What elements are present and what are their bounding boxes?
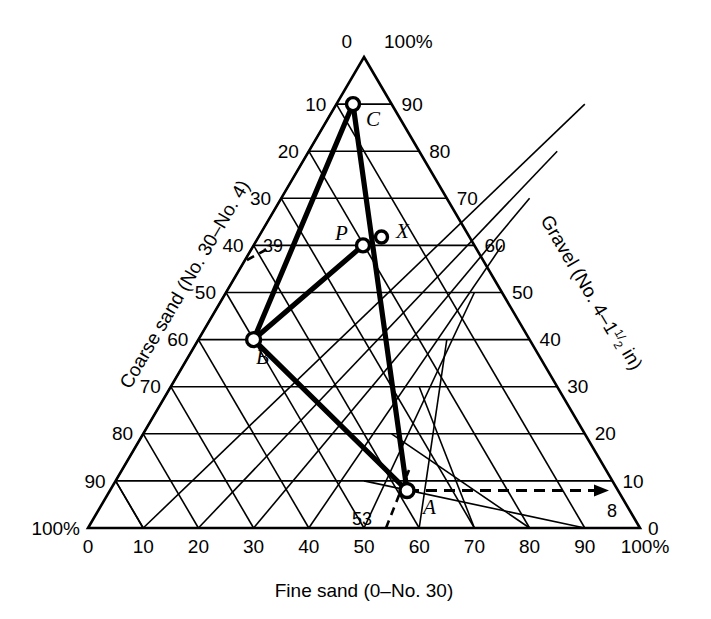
left-tick-100: 100% [31, 518, 80, 539]
bottom-tick-10: 10 [133, 536, 154, 557]
point-marker-p [357, 239, 370, 252]
bottom-tick-30: 30 [243, 536, 264, 557]
left-tick-20: 20 [278, 141, 299, 162]
right-tick-50: 50 [512, 282, 533, 303]
left-tick-90: 90 [84, 471, 105, 492]
bottom-tick-100: 100% [621, 536, 670, 557]
bottom-axis-ticks: 0 10 20 30 40 50 60 70 80 90 100% [83, 536, 670, 557]
annotation-fine-53: 53 [352, 509, 372, 529]
bottom-tick-50: 50 [353, 536, 374, 557]
point-label-p: P [334, 221, 348, 245]
right-tick-10: 10 [622, 471, 643, 492]
point-label-x: X [395, 219, 410, 243]
right-axis-ticks: 100% 90 80 70 60 50 40 30 20 10 0 [384, 31, 659, 539]
point-label-a: A [421, 495, 436, 519]
segment-b-a [254, 340, 407, 491]
point-marker-x [376, 231, 388, 243]
right-tick-30: 30 [567, 376, 588, 397]
point-label-b: B [256, 345, 269, 369]
left-tick-50: 50 [195, 282, 216, 303]
bottom-tick-80: 80 [519, 536, 540, 557]
right-tick-0: 0 [648, 518, 659, 539]
right-axis-title-group: Gravel (No. 4–11/2 in) [537, 210, 647, 375]
left-tick-70: 70 [140, 376, 161, 397]
bottom-tick-70: 70 [464, 536, 485, 557]
ternary-diagram-figure: C X P B A 39 53 8 0 10 20 30 40 50 60 70… [0, 0, 711, 619]
left-tick-60: 60 [167, 329, 188, 350]
left-tick-10: 10 [305, 94, 326, 115]
point-label-c: C [366, 107, 381, 131]
annotation-gravel-8: 8 [607, 501, 617, 521]
bottom-axis-title: Fine sand (0–No. 30) [275, 580, 454, 601]
point-marker-a [400, 484, 414, 498]
right-tick-90: 90 [402, 94, 423, 115]
right-axis-title-prefix: Gravel (No. 4–1 [537, 211, 623, 337]
bottom-tick-90: 90 [574, 536, 595, 557]
arrowhead-gravel8 [594, 485, 609, 497]
right-tick-20: 20 [595, 423, 616, 444]
bottom-tick-60: 60 [409, 536, 430, 557]
left-tick-30: 30 [250, 188, 271, 209]
left-tick-80: 80 [112, 423, 133, 444]
bottom-tick-0: 0 [83, 536, 94, 557]
left-tick-0: 0 [341, 31, 352, 52]
bottom-tick-20: 20 [188, 536, 209, 557]
ternary-diagram-svg: C X P B A 39 53 8 0 10 20 30 40 50 60 70… [0, 0, 711, 619]
left-tick-40: 40 [222, 235, 243, 256]
right-tick-60: 60 [484, 235, 505, 256]
left-axis-title: Coarse sand (No. 30–No. 4) [115, 176, 253, 392]
right-tick-100: 100% [384, 31, 433, 52]
right-tick-80: 80 [429, 141, 450, 162]
right-tick-40: 40 [540, 329, 561, 350]
segment-c-a [353, 104, 407, 490]
annotation-coarse-39: 39 [263, 236, 283, 256]
point-marker-c [347, 98, 360, 111]
right-tick-70: 70 [457, 188, 478, 209]
svg-text:Gravel (No. 4–11/2 in): Gravel (No. 4–11/2 in) [537, 210, 647, 375]
bottom-tick-40: 40 [298, 536, 319, 557]
